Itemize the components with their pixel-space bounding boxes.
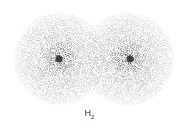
molecule-label: H2 bbox=[0, 108, 179, 120]
nucleus-left bbox=[56, 56, 63, 63]
nucleus-right bbox=[127, 56, 134, 63]
label-subscript: 2 bbox=[91, 114, 94, 120]
